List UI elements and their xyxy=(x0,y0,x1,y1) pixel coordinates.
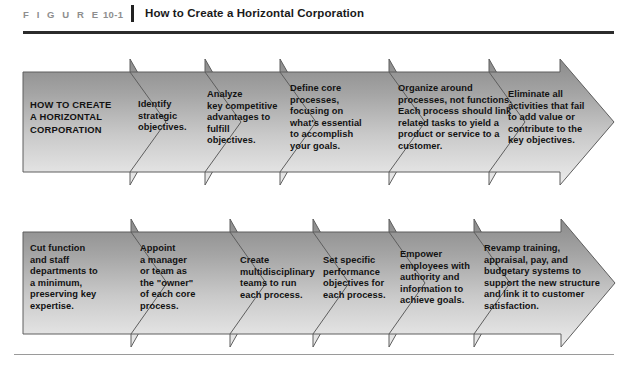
row1-segment-2-label: Identify strategic objectives. xyxy=(138,99,204,134)
row1-segment-4-label: Define core processes, focusing on what'… xyxy=(290,83,372,153)
row2-segment-3-label: Create multidisciplinary teams to run ea… xyxy=(240,255,326,301)
row2-segment-4-label: Set specific performance objectives for … xyxy=(323,255,403,301)
footer-rule xyxy=(14,354,614,355)
process-flow-diagram: HOW TO CREATE A HORIZONTAL CORPORATION I… xyxy=(0,0,627,365)
row2-segment-5-label: Empower employees with authority and inf… xyxy=(400,249,486,307)
row1-segment-1-label: HOW TO CREATE A HORIZONTAL CORPORATION xyxy=(30,99,138,136)
row2-segment-1-label: Cut function and staff departments to a … xyxy=(30,243,114,313)
row1-segment-5-label: Organize around processes, not functions… xyxy=(398,83,523,153)
row1-segment-3-label: Analyze key competitive advantages to fu… xyxy=(207,89,285,147)
row2-segment-6-label: Revamp training, appraisal, pay, and bud… xyxy=(484,243,614,313)
row2-segment-2-label: Appoint a manager or team as the "owner"… xyxy=(140,243,220,313)
row1-segment-6-label: Eliminate all activities that fail to ad… xyxy=(508,89,604,147)
